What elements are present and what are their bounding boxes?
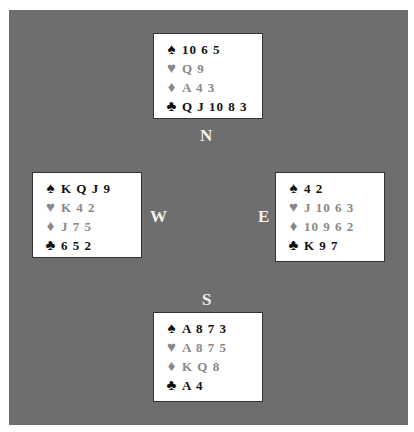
south-diamonds: ♦K Q 8 <box>164 357 262 376</box>
diamond-icon: ♦ <box>164 79 180 96</box>
east-hearts: ♥J 10 6 3 <box>286 198 384 217</box>
club-icon: ♣ <box>286 237 302 254</box>
west-clubs: ♣6 5 2 <box>43 236 141 255</box>
heart-icon: ♥ <box>43 199 59 216</box>
heart-icon: ♥ <box>164 339 180 356</box>
seat-label-east: E <box>258 207 269 227</box>
spade-icon: ♠ <box>164 320 180 337</box>
seat-label-west: W <box>150 207 167 227</box>
south-hearts: ♥A 8 7 5 <box>164 338 262 357</box>
seat-label-south: S <box>202 290 211 310</box>
club-icon: ♣ <box>164 98 180 115</box>
diamond-icon: ♦ <box>164 358 180 375</box>
heart-icon: ♥ <box>164 60 180 77</box>
east-hand: ♠4 2 ♥J 10 6 3 ♦10 9 6 2 ♣K 9 7 <box>275 172 385 262</box>
east-clubs: ♣K 9 7 <box>286 236 384 255</box>
spade-icon: ♠ <box>286 180 302 197</box>
spade-icon: ♠ <box>164 41 180 58</box>
north-spades: ♠10 6 5 <box>164 40 262 59</box>
west-spades: ♠K Q J 9 <box>43 179 141 198</box>
north-hand: ♠10 6 5 ♥Q 9 ♦A 4 3 ♣Q J 10 8 3 <box>153 33 263 119</box>
east-spades: ♠4 2 <box>286 179 384 198</box>
west-hand: ♠K Q J 9 ♥K 4 2 ♦J 7 5 ♣6 5 2 <box>32 172 142 258</box>
diamond-icon: ♦ <box>43 218 59 235</box>
seat-label-north: N <box>200 126 212 146</box>
club-icon: ♣ <box>43 237 59 254</box>
north-diamonds: ♦A 4 3 <box>164 78 262 97</box>
north-clubs: ♣Q J 10 8 3 <box>164 97 262 116</box>
south-hand: ♠A 8 7 3 ♥A 8 7 5 ♦K Q 8 ♣A 4 <box>153 312 263 402</box>
east-diamonds: ♦10 9 6 2 <box>286 217 384 236</box>
heart-icon: ♥ <box>286 199 302 216</box>
diamond-icon: ♦ <box>286 218 302 235</box>
west-hearts: ♥K 4 2 <box>43 198 141 217</box>
south-spades: ♠A 8 7 3 <box>164 319 262 338</box>
club-icon: ♣ <box>164 377 180 394</box>
spade-icon: ♠ <box>43 180 59 197</box>
west-diamonds: ♦J 7 5 <box>43 217 141 236</box>
south-clubs: ♣A 4 <box>164 376 262 395</box>
north-hearts: ♥Q 9 <box>164 59 262 78</box>
